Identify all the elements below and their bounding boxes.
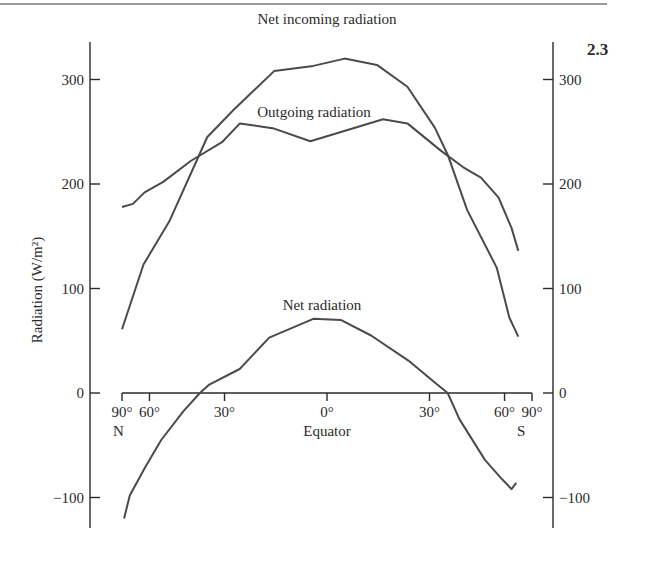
x-axis-label: Equator <box>303 423 350 439</box>
y-tick-label-left: 0 <box>77 385 85 401</box>
label-net-incoming: Net incoming radiation <box>257 11 397 27</box>
y-tick-label-right: 100 <box>559 281 582 297</box>
x-tick-label: 60° <box>494 404 515 420</box>
y-tick-label-left: 100 <box>62 281 85 297</box>
y-tick-label-left: −100 <box>53 490 84 506</box>
y-tick-label-left: 200 <box>62 176 85 192</box>
y-tick-label-right: 300 <box>559 72 582 88</box>
radiation-chart: 2.3 3002001000−100 3002001000−100 90°60°… <box>0 0 661 565</box>
north-label: N <box>113 423 124 439</box>
y-tick-label-left: 300 <box>62 72 85 88</box>
x-tick-label: 60° <box>139 404 160 420</box>
x-tick-label: 0° <box>320 404 334 420</box>
x-tick-label: 30° <box>214 404 235 420</box>
y-axis-label: Radiation (W/m²) <box>29 237 46 344</box>
y-tick-label-right: 200 <box>559 176 582 192</box>
south-label: S <box>517 423 525 439</box>
figure-number: 2.3 <box>587 40 608 59</box>
net-incoming-radiation-line <box>122 59 518 337</box>
y-tick-label-right: 0 <box>559 385 567 401</box>
label-outgoing: Outgoing radiation <box>257 104 371 120</box>
x-tick-label: 30° <box>419 404 440 420</box>
x-tick-label: 90° <box>112 404 133 420</box>
label-net-radiation: Net radiation <box>283 297 362 313</box>
y-tick-label-right: −100 <box>559 490 590 506</box>
x-tick-label: 90° <box>522 404 543 420</box>
